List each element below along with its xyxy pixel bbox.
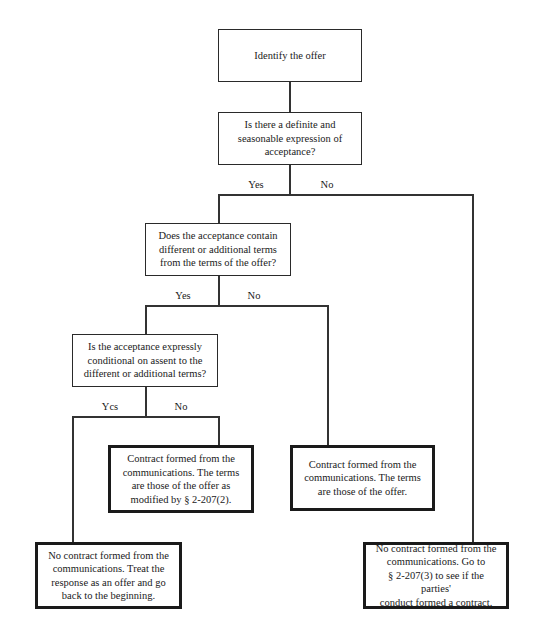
node-text: No contract formed from the communicatio… xyxy=(48,549,169,603)
label-q2-no: No xyxy=(248,290,261,302)
label-q1-no: No xyxy=(321,179,334,191)
connector-offer-to-q1 xyxy=(289,81,291,112)
connector-q1-yes xyxy=(218,194,220,223)
node-question-acceptance: Is there a definite and seasonable expre… xyxy=(218,112,362,165)
connector-q2-yes xyxy=(145,305,147,334)
connector-q1-stem xyxy=(289,164,291,195)
node-text: Is there a definite and seasonable expre… xyxy=(238,118,342,159)
node-text: Identify the offer xyxy=(254,49,326,63)
connector-q3-no xyxy=(218,416,220,446)
node-outcome-treat-as-offer: No contract formed from the communicatio… xyxy=(35,542,182,609)
connector-q3-yes xyxy=(72,416,74,543)
label-q2-yes: Yes xyxy=(175,290,190,302)
node-outcome-offer-terms: Contract formed from the communications.… xyxy=(290,445,435,511)
label-q1-yes: Yes xyxy=(248,179,263,191)
connector-q2-stem xyxy=(218,275,220,306)
node-outcome-modified-terms: Contract formed from the communications.… xyxy=(108,445,254,513)
label-q3-no: No xyxy=(175,401,188,413)
flowchart: Identify the offer Is there a definite a… xyxy=(0,0,539,639)
node-text: No contract formed from the communicatio… xyxy=(372,542,500,610)
node-text: Contract formed from the communications.… xyxy=(304,458,421,499)
node-text: Contract formed from the communications.… xyxy=(123,452,240,506)
node-identify-offer: Identify the offer xyxy=(218,29,362,82)
connector-q1-no xyxy=(472,194,474,543)
connector-q2-no xyxy=(327,305,329,445)
connector-q2-branch xyxy=(145,305,328,307)
node-outcome-see-2-207-3: No contract formed from the communicatio… xyxy=(363,542,509,609)
connector-q3-stem xyxy=(145,386,147,417)
label-q3-yes: Ycs xyxy=(102,401,118,413)
connector-q3-branch xyxy=(72,416,219,418)
node-text: Does the acceptance contain different or… xyxy=(158,229,277,270)
node-text: Is the acceptance expressly conditional … xyxy=(84,340,207,381)
connector-q1-branch xyxy=(218,194,473,196)
node-question-different-terms: Does the acceptance contain different or… xyxy=(145,223,291,276)
node-question-expressly-conditional: Is the acceptance expressly conditional … xyxy=(72,334,218,387)
